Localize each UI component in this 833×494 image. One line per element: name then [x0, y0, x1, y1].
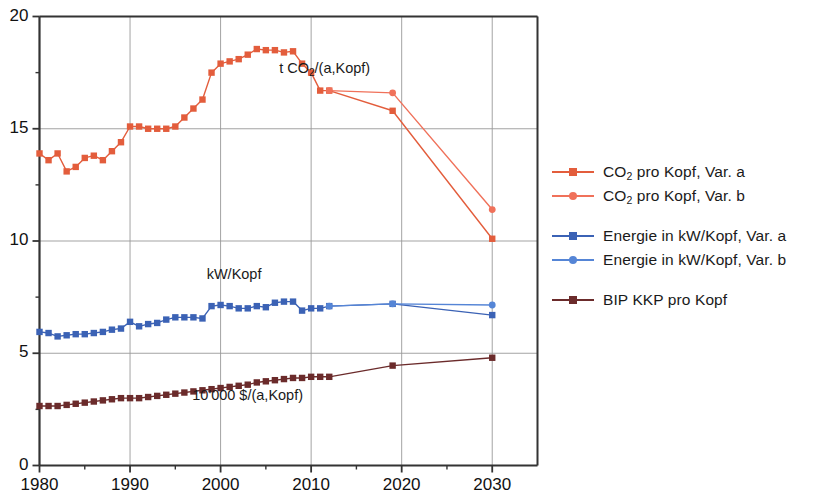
data-point [127, 123, 133, 129]
data-point [254, 46, 260, 52]
data-point [317, 305, 323, 311]
data-point [154, 320, 160, 326]
data-point [45, 403, 51, 409]
data-point [290, 48, 296, 54]
data-point [489, 206, 496, 213]
data-point [181, 114, 187, 120]
data-point [163, 392, 169, 398]
data-point [489, 312, 495, 318]
legend-item[interactable]: CO2 pro Kopf, Var. b [552, 184, 832, 208]
legend-item-label: CO2 pro Kopf, Var. a [603, 163, 745, 181]
legend-group: CO2 pro Kopf, Var. aCO2 pro Kopf, Var. b [552, 160, 832, 208]
data-point [489, 236, 495, 242]
data-point [263, 378, 269, 384]
data-point [254, 379, 260, 385]
data-point [63, 332, 69, 338]
data-point [236, 56, 242, 62]
y-axis-tick-label: 15 [0, 118, 29, 138]
data-point [281, 298, 287, 304]
data-point [326, 374, 332, 380]
data-point [118, 325, 124, 331]
legend-key-icon [552, 226, 594, 246]
data-point [73, 401, 79, 407]
legend-group: Energie in kW/Kopf, Var. aEnergie in kW/… [552, 224, 832, 272]
data-point [263, 47, 269, 53]
data-point [145, 321, 151, 327]
data-point [91, 152, 97, 158]
data-point [154, 393, 160, 399]
legend-item[interactable]: Energie in kW/Kopf, Var. a [552, 224, 832, 248]
legend-key-icon [552, 162, 594, 182]
data-point [73, 331, 79, 337]
data-point [82, 331, 88, 337]
data-point [272, 300, 278, 306]
data-point [118, 395, 124, 401]
legend-item[interactable]: BIP KKP pro Kopf [552, 288, 832, 312]
data-point [54, 333, 60, 339]
data-point [63, 168, 69, 174]
data-point [73, 164, 79, 170]
data-point [54, 403, 60, 409]
data-point [190, 105, 196, 111]
data-point [145, 126, 151, 132]
data-point [82, 155, 88, 161]
data-point [290, 375, 296, 381]
x-axis-tick-label: 1980 [10, 475, 70, 494]
legend-marker-swatch [569, 232, 577, 240]
data-point [217, 302, 223, 308]
data-point [100, 157, 106, 163]
data-point [145, 394, 151, 400]
x-axis-tick-label: 2000 [191, 475, 251, 494]
data-point [127, 319, 133, 325]
data-point [63, 402, 69, 408]
data-point [389, 300, 396, 307]
data-point [389, 89, 396, 96]
data-point [172, 123, 178, 129]
data-point [172, 314, 178, 320]
data-point [54, 150, 60, 156]
data-point [281, 376, 287, 382]
data-point [172, 390, 178, 396]
data-point [263, 304, 269, 310]
legend-item-label: Energie in kW/Kopf, Var. b [603, 251, 786, 269]
data-point [299, 307, 305, 313]
data-point [226, 58, 232, 64]
data-point [281, 49, 287, 55]
plot-annotation: kW/Kopf [207, 266, 262, 282]
x-axis-tick-label: 2010 [281, 475, 341, 494]
data-point [36, 150, 42, 156]
data-point [136, 395, 142, 401]
legend-item[interactable]: Energie in kW/Kopf, Var. b [552, 248, 832, 272]
legend-marker-swatch [569, 168, 577, 176]
data-point [36, 403, 42, 409]
legend-key-icon [552, 290, 594, 310]
x-axis-tick-label: 1990 [100, 475, 160, 494]
data-point [217, 60, 223, 66]
data-point [245, 51, 251, 57]
plot-annotation: t CO2/(a,Kopf) [279, 60, 370, 76]
data-point [245, 305, 251, 311]
data-point [91, 398, 97, 404]
chart-legend: CO2 pro Kopf, Var. aCO2 pro Kopf, Var. b… [552, 160, 832, 328]
data-point [489, 302, 496, 309]
data-point [489, 355, 495, 361]
data-point [136, 123, 142, 129]
data-point [45, 157, 51, 163]
plot-annotation: 10'000 $/(a,Kopf) [192, 387, 303, 403]
data-point [326, 303, 333, 310]
data-point [91, 330, 97, 336]
data-point [181, 314, 187, 320]
x-axis-tick-label: 2030 [462, 475, 522, 494]
data-point [136, 323, 142, 329]
y-axis-tick-label: 10 [0, 230, 29, 250]
data-point [226, 303, 232, 309]
data-point [199, 315, 205, 321]
data-point [199, 96, 205, 102]
data-point [36, 329, 42, 335]
legend-key-icon [552, 186, 594, 206]
legend-marker-swatch [569, 256, 577, 264]
data-point [326, 87, 333, 94]
legend-group: BIP KKP pro Kopf [552, 288, 832, 312]
legend-item[interactable]: CO2 pro Kopf, Var. a [552, 160, 832, 184]
legend-item-label: Energie in kW/Kopf, Var. a [603, 227, 786, 245]
